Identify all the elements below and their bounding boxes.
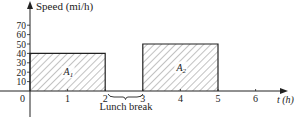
y-ticks: 10203040506070 bbox=[17, 21, 31, 87]
y-tick-label: 20 bbox=[17, 68, 27, 78]
y-tick-label: 60 bbox=[17, 30, 27, 40]
origin-label: 0 bbox=[20, 93, 25, 104]
y-tick-label: 70 bbox=[17, 21, 27, 31]
x-tick-label: 6 bbox=[253, 93, 258, 104]
speed-time-chart: A1A2 10203040506070 123456 Speed (mi/h) … bbox=[0, 0, 299, 118]
x-axis-label: t (h) bbox=[277, 94, 295, 106]
bar-a2: A2 bbox=[143, 44, 218, 91]
y-tick-label: 10 bbox=[17, 77, 27, 87]
x-tick-label: 4 bbox=[178, 93, 183, 104]
y-tick-label: 50 bbox=[17, 40, 27, 50]
y-axis-arrow-icon bbox=[27, 1, 33, 9]
y-tick-label: 30 bbox=[17, 58, 27, 68]
x-tick-label: 5 bbox=[216, 93, 221, 104]
x-tick-label: 1 bbox=[65, 93, 70, 104]
brace-icon bbox=[108, 94, 143, 100]
y-tick-label: 40 bbox=[17, 49, 27, 59]
y-axis-label: Speed (mi/h) bbox=[36, 0, 93, 13]
bar-a1: A1 bbox=[30, 53, 105, 91]
lunch-break-label: Lunch break bbox=[100, 101, 154, 112]
bars-group: A1A2 bbox=[30, 44, 218, 91]
